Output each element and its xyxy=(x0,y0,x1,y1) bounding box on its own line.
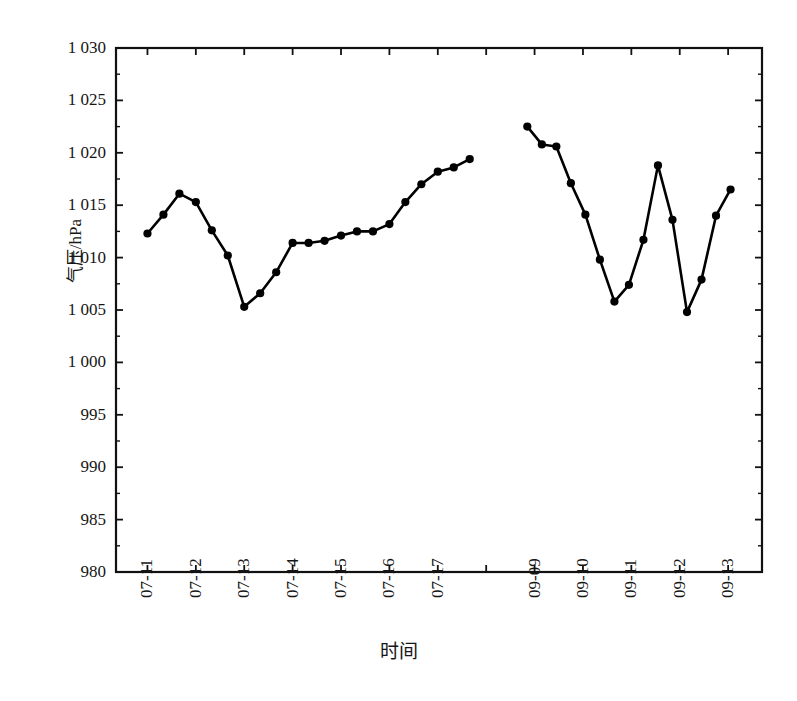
data-point-marker xyxy=(538,140,546,148)
y-tick-label: 1 015 xyxy=(36,196,106,213)
x-tick-label: 07-15 xyxy=(332,580,350,598)
y-tick-label: 995 xyxy=(36,406,106,423)
data-point-marker xyxy=(697,276,705,284)
data-point-marker xyxy=(434,168,442,176)
x-tick-label: 09-10 xyxy=(574,580,592,598)
x-axis-title: 时间 xyxy=(0,636,797,663)
y-tick-label: 990 xyxy=(36,458,106,475)
x-tick-label: 09-12 xyxy=(671,580,689,598)
data-point-marker xyxy=(712,212,720,220)
data-point-marker xyxy=(192,198,200,206)
data-point-marker xyxy=(369,227,377,235)
y-tick-label: 1 010 xyxy=(36,249,106,266)
y-tick-label: 1 000 xyxy=(36,353,106,370)
data-point-marker xyxy=(625,281,633,289)
x-tick-label: 09-11 xyxy=(622,580,640,598)
x-tick-label: 07-13 xyxy=(235,580,253,598)
data-point-marker xyxy=(596,256,604,264)
data-point-marker xyxy=(654,161,662,169)
pressure-time-series-chart: 气压/hPa 时间 1 0301 0251 0201 0151 0101 005… xyxy=(0,0,797,701)
data-point-marker xyxy=(353,227,361,235)
y-tick-label: 1 005 xyxy=(36,301,106,318)
y-tick-label: 980 xyxy=(36,563,106,580)
data-point-marker xyxy=(567,179,575,187)
data-point-marker xyxy=(450,163,458,171)
x-tick-label: 07-12 xyxy=(187,580,205,598)
data-point-marker xyxy=(466,155,474,163)
data-point-marker xyxy=(272,268,280,276)
data-point-marker xyxy=(208,226,216,234)
x-tick-label: 07-17 xyxy=(429,580,447,598)
data-point-marker xyxy=(683,308,691,316)
data-point-marker xyxy=(337,231,345,239)
data-point-marker xyxy=(581,211,589,219)
x-tick-label: 09-13 xyxy=(719,580,737,598)
data-point-marker xyxy=(240,303,248,311)
x-tick-label: 07-14 xyxy=(284,580,302,598)
data-point-marker xyxy=(610,298,618,306)
data-point-marker xyxy=(552,142,560,150)
data-point-marker xyxy=(304,239,312,247)
plot-frame xyxy=(116,48,762,572)
data-point-marker xyxy=(224,251,232,259)
y-tick-label: 1 030 xyxy=(36,39,106,56)
data-point-marker xyxy=(523,123,531,131)
x-tick-label: 09-09 xyxy=(526,580,544,598)
data-point-marker xyxy=(256,289,264,297)
y-tick-label: 1 020 xyxy=(36,144,106,161)
x-tick-label: 07-16 xyxy=(380,580,398,598)
y-tick-label: 985 xyxy=(36,511,106,528)
data-point-marker xyxy=(726,185,734,193)
data-point-marker xyxy=(175,190,183,198)
data-point-marker xyxy=(417,180,425,188)
data-point-marker xyxy=(289,239,297,247)
data-point-marker xyxy=(668,216,676,224)
data-point-marker xyxy=(159,211,167,219)
data-point-marker xyxy=(143,229,151,237)
x-tick-label: 07-11 xyxy=(138,580,156,598)
data-point-marker xyxy=(320,237,328,245)
data-point-marker xyxy=(639,236,647,244)
y-tick-label: 1 025 xyxy=(36,91,106,108)
data-point-marker xyxy=(385,220,393,228)
data-point-marker xyxy=(401,198,409,206)
